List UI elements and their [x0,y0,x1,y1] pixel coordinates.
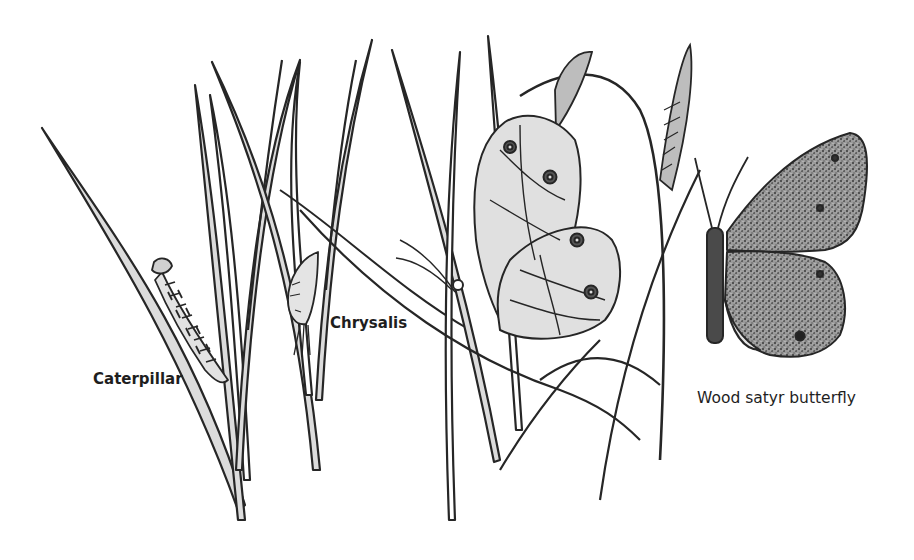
caterpillar-label: Caterpillar [93,370,183,388]
grass-life-cycle-drawing [0,0,914,560]
grass-clump-chrysalis [212,40,470,470]
illustration-canvas: Caterpillar Chrysalis Wood satyr butterf… [0,0,914,560]
butterfly-label: Wood satyr butterfly [697,389,856,407]
chrysalis-label: Chrysalis [330,314,407,332]
chrysalis [288,252,318,357]
wood-satyr-butterfly [695,133,867,357]
